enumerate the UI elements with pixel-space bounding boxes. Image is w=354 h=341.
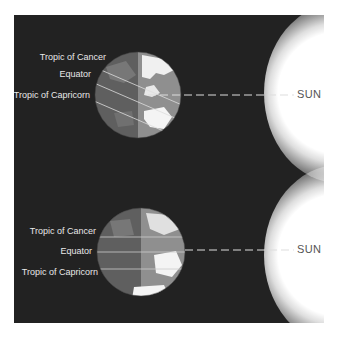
label-tropic-capricorn-top: Tropic of Capricorn: [14, 90, 90, 100]
globe-top: [94, 51, 182, 141]
sun-label-top: SUN: [297, 88, 321, 100]
diagram-panel: Tropic of Cancer Equator Tropic of Capri…: [14, 15, 324, 323]
label-tropic-cancer-top: Tropic of Cancer: [40, 52, 106, 62]
sun-label-bottom: SUN: [297, 243, 321, 255]
label-equator-top: Equator: [59, 69, 91, 79]
label-tropic-cancer-bottom: Tropic of Cancer: [30, 226, 96, 236]
label-equator-bottom: Equator: [60, 246, 92, 256]
label-tropic-capricorn-bottom: Tropic of Capricorn: [22, 267, 98, 277]
